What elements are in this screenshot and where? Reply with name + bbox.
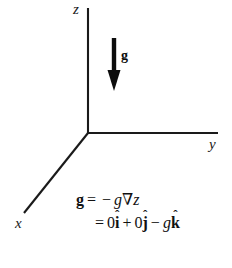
k-hat-caret-icon: ˆ bbox=[173, 208, 177, 221]
equation-line-2: =0ˆi+0ˆj−gˆk bbox=[0, 215, 232, 231]
eq1-g-vector: g bbox=[76, 191, 84, 208]
gravity-vector-arrow bbox=[108, 38, 121, 91]
z-axis-label: z bbox=[73, 2, 79, 17]
eq2-coefficient-j: 0 bbox=[135, 214, 143, 231]
gravity-arrow-head bbox=[108, 70, 121, 91]
i-hat-caret-icon: ˆ bbox=[115, 208, 119, 221]
unit-vector-j-hat: ˆj bbox=[143, 215, 148, 231]
eq2-minus-sign: − bbox=[148, 214, 163, 231]
equation-line-1: g=−g∇z bbox=[0, 192, 232, 208]
equation-block: g=−g∇z =0ˆi+0ˆj−gˆk bbox=[0, 192, 232, 231]
eq1-variable-z: z bbox=[133, 191, 139, 208]
unit-vector-i-hat: ˆi bbox=[115, 215, 119, 231]
j-hat-caret-icon: ˆ bbox=[143, 208, 147, 221]
unit-vector-k-hat: ˆk bbox=[171, 215, 180, 231]
gravity-vector-label: g bbox=[121, 49, 128, 63]
eq2-plus-sign: + bbox=[119, 214, 134, 231]
eq2-equals-sign: = bbox=[92, 214, 107, 231]
nabla-icon: ∇ bbox=[122, 191, 133, 208]
eq2-scalar-g: g bbox=[163, 214, 171, 231]
y-axis-label: y bbox=[209, 137, 216, 152]
eq2-coefficient-i: 0 bbox=[107, 214, 115, 231]
eq1-minus-sign: − bbox=[99, 191, 114, 208]
eq1-scalar-g: g bbox=[114, 191, 122, 208]
eq1-equals-sign: = bbox=[84, 191, 99, 208]
